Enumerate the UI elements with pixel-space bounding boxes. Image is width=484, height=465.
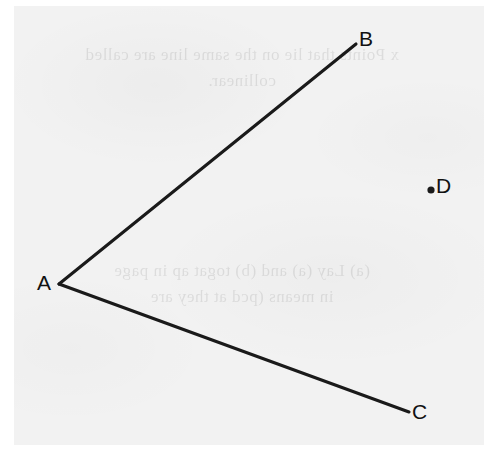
point-d-dot bbox=[427, 186, 434, 193]
point-label-c: C bbox=[412, 401, 427, 422]
point-label-d: D bbox=[436, 175, 451, 196]
geometry-drawing-layer bbox=[0, 0, 484, 465]
segment-ac bbox=[59, 284, 409, 412]
point-label-a: A bbox=[37, 272, 51, 293]
segment-ab bbox=[59, 44, 356, 284]
point-label-b: B bbox=[359, 28, 373, 49]
figure-root: x Points that lie on the same line are c… bbox=[0, 0, 484, 465]
